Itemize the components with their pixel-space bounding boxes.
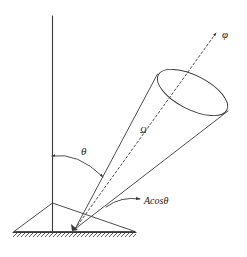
omega-label: Ω <box>140 126 147 135</box>
theta-label: θ <box>81 146 86 157</box>
solid-angle-figure: φ Ω θ Acosθ <box>0 0 247 257</box>
projected-area-label: Acosθ <box>144 196 168 206</box>
theta-angle-arc <box>52 155 103 177</box>
ground-hatching <box>13 233 136 237</box>
phi-label: φ <box>222 29 228 40</box>
figure-canvas <box>0 0 247 257</box>
acos-leader-line <box>106 198 140 207</box>
